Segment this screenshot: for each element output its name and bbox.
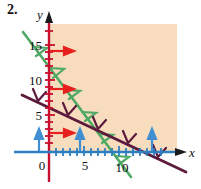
y-tick-label-5: 5	[36, 108, 43, 123]
graph-figure: 2.	[0, 0, 201, 189]
y-axis-label: y	[35, 7, 43, 22]
x-tick-label-0: 0	[39, 158, 46, 173]
y-axis-arrowhead	[45, 11, 53, 23]
x-tick-label-10: 10	[116, 160, 129, 175]
x-tick-label-5: 5	[82, 158, 89, 173]
x-axis-label: x	[188, 145, 195, 160]
y-tick-label-10: 10	[29, 73, 42, 88]
x-axis-arrowhead	[175, 148, 187, 156]
y-tick-label-15: 15	[29, 38, 42, 53]
coordinate-plane-svg: y x 15 10 5 0 5 10	[0, 0, 201, 189]
